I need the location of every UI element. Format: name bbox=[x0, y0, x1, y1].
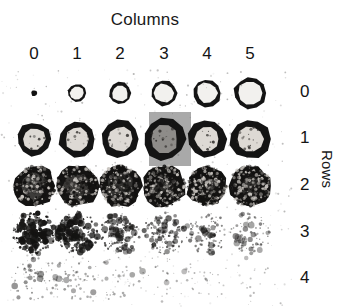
spot-r0-c2 bbox=[102, 75, 138, 111]
column-label-1: 1 bbox=[65, 44, 89, 64]
column-label-4: 4 bbox=[195, 44, 219, 64]
spot-r4-c5 bbox=[221, 250, 279, 308]
spot-r0-c5 bbox=[227, 70, 273, 116]
spot-r0-c1 bbox=[61, 77, 93, 109]
spot-r1-c0 bbox=[10, 115, 58, 163]
spot-r0-c3 bbox=[144, 73, 184, 113]
rows-axis-title: Rows bbox=[314, 150, 336, 206]
column-label-2: 2 bbox=[108, 44, 132, 64]
row-label-4: 4 bbox=[300, 268, 320, 288]
column-label-3: 3 bbox=[152, 44, 176, 64]
column-label-0: 0 bbox=[22, 44, 46, 64]
column-label-5: 5 bbox=[238, 44, 262, 64]
spot-r0-c0 bbox=[24, 83, 44, 103]
spot-array-figure: Columns 012345 01234 Rows bbox=[0, 0, 340, 308]
row-label-0: 0 bbox=[300, 82, 320, 102]
row-label-3: 3 bbox=[300, 222, 320, 242]
spot-r0-c4 bbox=[186, 72, 228, 114]
columns-axis-title: Columns bbox=[0, 10, 290, 30]
row-label-1: 1 bbox=[300, 128, 320, 148]
